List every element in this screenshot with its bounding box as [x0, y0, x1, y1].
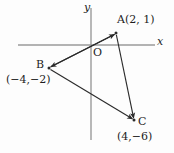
vertex-point-b [48, 67, 51, 70]
segment-a-to-b [51, 34, 115, 66]
vertex-point-c [133, 119, 136, 122]
segment-a-to-c [116, 35, 133, 118]
vertex-coordinates-c: (4,−6) [117, 131, 152, 142]
vertex-point-a [115, 32, 118, 35]
coordinate-plane-figure: y x O A(2, 1) B (−4,−2) C (4,−6) [0, 0, 174, 153]
vertex-label-b: B [36, 59, 44, 70]
x-axis-label: x [157, 36, 163, 47]
vertex-label-c: C [138, 116, 146, 127]
vertex-label-a: A(2, 1) [117, 14, 155, 25]
vertex-coordinates-b: (−4,−2) [6, 74, 51, 85]
origin-label: O [93, 47, 102, 58]
y-axis-label: y [84, 2, 90, 13]
